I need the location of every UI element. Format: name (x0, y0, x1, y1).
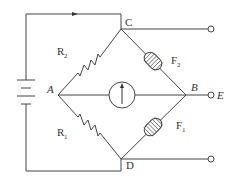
galvanometer-icon (58, 82, 186, 108)
label-r2: R 2 (57, 45, 68, 60)
battery-icon (17, 77, 35, 106)
resistor-r2-icon (58, 29, 121, 95)
label-f1: F 1 (176, 119, 186, 134)
node-label-e: E (216, 89, 224, 101)
svg-text:2: 2 (64, 52, 68, 60)
node-label-b: B (191, 81, 198, 93)
node-label-a: A (46, 83, 54, 95)
wheatstone-bridge-diagram: C D A B E R 2 R 1 F 2 F 1 (0, 0, 237, 185)
outer-circuit-wires (26, 14, 121, 171)
output-terminal-d (121, 156, 214, 162)
node-label-d: D (126, 159, 134, 171)
svg-text:1: 1 (182, 126, 186, 134)
output-terminal-c (121, 26, 214, 32)
label-f2: F 2 (171, 54, 181, 69)
current-arrow-icon (72, 12, 78, 16)
resistor-r1-icon (58, 95, 121, 159)
label-r1: R 1 (57, 126, 68, 141)
node-label-c: C (125, 16, 132, 28)
svg-text:1: 1 (64, 133, 68, 141)
svg-text:2: 2 (177, 61, 181, 69)
